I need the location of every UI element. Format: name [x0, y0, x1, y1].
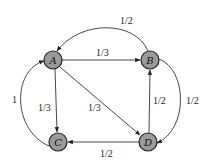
node-label-b: B — [145, 55, 153, 66]
edge-label-b-a: 1/2 — [120, 15, 133, 26]
graph-diagram: 1/3 1/3 1/3 1/2 1/2 1 1/2 1/2 A B C D — [0, 0, 212, 168]
node-label-d: D — [143, 137, 152, 148]
edge-label-d-c: 1/2 — [100, 148, 113, 159]
edge-d-b — [149, 70, 150, 133]
edge-a-c — [55, 69, 57, 132]
node-c: C — [49, 133, 67, 151]
node-label-c: C — [54, 137, 62, 148]
edge-label-a-d: 1/3 — [88, 102, 101, 113]
edge-label-b-d: 1/2 — [186, 95, 199, 106]
node-d: D — [139, 133, 157, 151]
edge-label-a-c: 1/3 — [38, 102, 51, 113]
node-b: B — [141, 51, 159, 69]
edge-label-c-a: 1 — [12, 94, 17, 105]
edge-label-a-b: 1/3 — [96, 47, 109, 58]
edge-a-d — [60, 67, 140, 135]
node-a: A — [44, 51, 62, 69]
edge-label-d-b: 1/2 — [153, 95, 166, 106]
node-label-a: A — [48, 55, 56, 66]
